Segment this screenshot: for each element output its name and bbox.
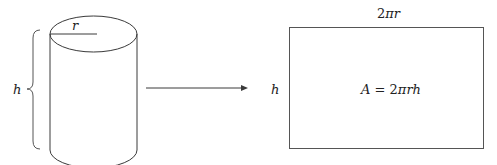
radius-label: r	[72, 18, 79, 33]
transform-arrow	[146, 85, 248, 91]
rectangle-width-label: 2πr	[377, 6, 401, 21]
cylinder-bottom-arc	[50, 150, 137, 165]
arrowhead-icon	[241, 85, 248, 91]
rectangle-height-label: h	[271, 82, 279, 97]
area-formula: A = 2πrh	[360, 82, 421, 97]
cylinder	[50, 16, 137, 165]
height-brace	[27, 30, 40, 149]
cylinder-unroll-diagram: r h 2πr h A = 2πrh	[0, 0, 497, 165]
cylinder-height-label: h	[13, 82, 21, 97]
